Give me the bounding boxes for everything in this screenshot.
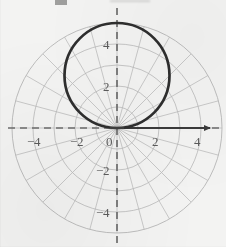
tick-label-x-neg-4: −4 bbox=[27, 134, 40, 150]
spoke-15 bbox=[117, 101, 218, 128]
tick-label-x-pos-2: 2 bbox=[152, 134, 158, 150]
tick-label-y-pos-2: 2 bbox=[103, 79, 109, 95]
spoke-75 bbox=[117, 27, 144, 128]
spoke-300 bbox=[117, 128, 170, 219]
tick-label-origin: 0 bbox=[106, 134, 112, 150]
spoke-345 bbox=[117, 128, 218, 155]
spoke-45 bbox=[117, 54, 191, 128]
tick-label-x-pos-4: 4 bbox=[194, 134, 200, 150]
tick-label-y-neg-4: −4 bbox=[96, 205, 109, 221]
scan-artifact-top-right bbox=[110, 0, 150, 2]
spoke-285 bbox=[117, 128, 144, 229]
tick-label-y-pos-4: 4 bbox=[103, 37, 109, 53]
tick-label-x-neg-2: −2 bbox=[70, 134, 83, 150]
tick-label-y-neg-2: −2 bbox=[96, 163, 109, 179]
scan-artifact-top-left bbox=[55, 0, 67, 5]
spoke-60 bbox=[117, 37, 170, 128]
spoke-165 bbox=[16, 101, 117, 128]
polar-plot-canvas bbox=[0, 0, 226, 247]
polar-plot-figure: −4 −2 0 2 4 4 2 −2 −4 bbox=[0, 0, 226, 247]
